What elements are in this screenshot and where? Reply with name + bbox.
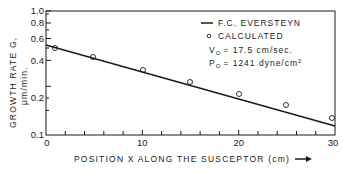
y-tick-0.2: 0.2 [31, 92, 44, 103]
v0-annotation: VO= 17.5 cm/sec. [209, 45, 293, 56]
plot-frame [46, 11, 335, 135]
calculated-points [53, 46, 335, 121]
data-point [188, 80, 193, 85]
x-tick-20: 20 [233, 137, 244, 148]
x-tick-0: 0 [44, 137, 49, 148]
y-axis-units: μm/min. [19, 66, 29, 105]
arrow-right-icon [295, 156, 312, 162]
x-tick-30: 30 [328, 137, 339, 148]
x-axis [65, 130, 315, 135]
y-tick-0.6: 0.6 [31, 33, 44, 44]
x-tick-10: 10 [137, 137, 148, 148]
legend: F.C. EVERSTEYN CALCULATED VO= 17.5 cm/se… [201, 18, 302, 69]
growth-rate-chart: 1.0 0.8 0.6 0.4 0.2 0.1 0 10 20 30 POSIT… [0, 0, 343, 173]
y-tick-1.0: 1.0 [31, 5, 44, 16]
data-point [330, 116, 335, 121]
x-axis-title: POSITION X ALONG THE SUSCEPTOR (cm) [74, 154, 290, 164]
y-tick-0.8: 0.8 [31, 17, 44, 28]
y-tick-0.4: 0.4 [31, 55, 44, 66]
x-tick-labels: 0 10 20 30 [44, 137, 338, 148]
y-tick-labels: 1.0 0.8 0.6 0.4 0.2 0.1 [31, 5, 44, 140]
legend-calculated: CALCULATED [218, 31, 284, 41]
data-point [237, 92, 242, 97]
legend-circle-swatch [207, 34, 211, 38]
y-axis [46, 11, 51, 110]
data-point [284, 103, 289, 108]
y-tick-0.1: 0.1 [31, 129, 44, 140]
y-axis-title: GROWTH RATE G, [8, 37, 18, 128]
p0-annotation: PO= 1241 dyne/cm2 [209, 58, 302, 69]
legend-everstein: F.C. EVERSTEYN [218, 18, 301, 28]
